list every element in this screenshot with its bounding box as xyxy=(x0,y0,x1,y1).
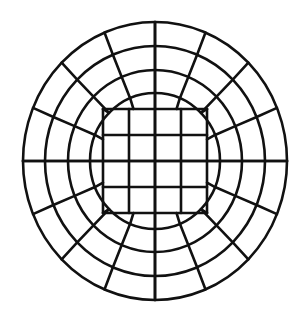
mesh-svg xyxy=(0,0,307,321)
mesh-figure xyxy=(0,0,307,321)
